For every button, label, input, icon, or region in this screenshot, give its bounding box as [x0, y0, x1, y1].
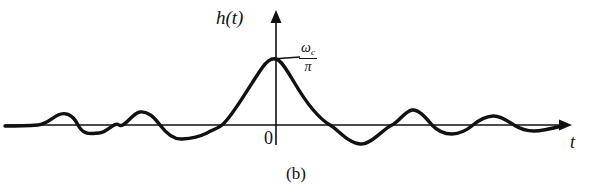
sinc-impulse-response-figure: h(t) ωc π 0 t (b): [0, 0, 592, 193]
peak-amplitude-denominator: π: [299, 59, 317, 75]
y-axis-label: h(t): [216, 8, 243, 27]
omega-subscript-c: c: [311, 47, 315, 57]
origin-tick-label: 0: [264, 129, 273, 147]
figure-caption: (b): [0, 165, 592, 182]
x-axis-label: t: [570, 133, 575, 151]
omega-symbol: ω: [301, 40, 311, 55]
peak-amplitude-numerator: ωc: [299, 41, 317, 59]
x-axis-group: [5, 120, 572, 131]
peak-amplitude-label: ωc π: [299, 41, 317, 75]
y-axis-arrowhead: [271, 10, 282, 23]
sinc-waveform-curve: [5, 59, 562, 144]
